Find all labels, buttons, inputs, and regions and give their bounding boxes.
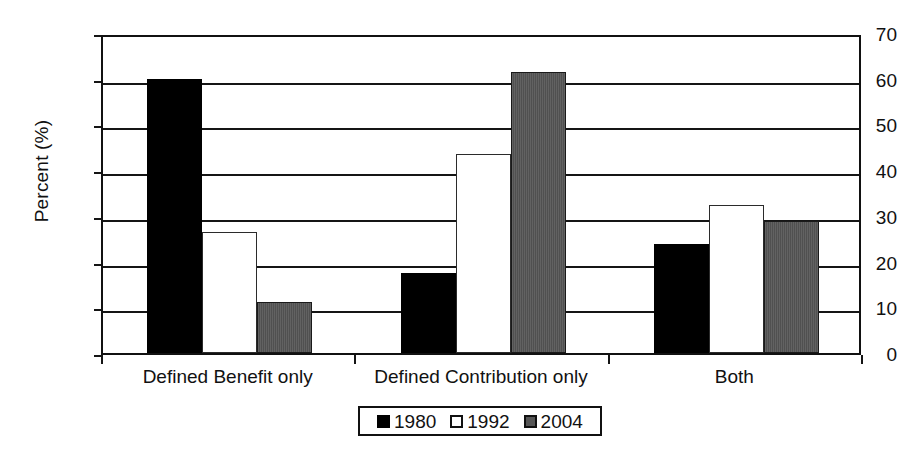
bar-1992-3 (709, 205, 764, 353)
bar-1980-1 (147, 79, 202, 353)
y-tick-mark (94, 172, 101, 174)
x-category-label: Both (608, 366, 861, 388)
y-tick-label: 50 (857, 116, 897, 135)
bar-1992-2 (456, 154, 511, 353)
gridline (103, 128, 859, 130)
bar-2004-3 (764, 221, 819, 353)
plot-area (101, 35, 861, 355)
x-category-label: Defined Contribution only (354, 366, 607, 388)
x-tick-mark (354, 355, 356, 364)
y-tick-mark (94, 309, 101, 311)
y-tick-mark (94, 126, 101, 128)
bar-2004-2 (511, 72, 566, 353)
legend-label: 2004 (541, 412, 583, 431)
y-axis-title: Percent (%) (31, 51, 53, 291)
y-tick-mark (94, 218, 101, 220)
bar-chart-figure: Percent (%) 010203040506070 Defined Bene… (0, 0, 897, 461)
legend-swatch-icon (524, 415, 537, 428)
bar-2004-1 (257, 302, 312, 353)
x-category-label: Defined Benefit only (101, 366, 354, 388)
legend-label: 1992 (467, 412, 509, 431)
bar-1992-1 (202, 232, 257, 353)
y-tick-label: 0 (857, 345, 897, 364)
bar-1980-3 (654, 244, 709, 353)
y-tick-label: 10 (857, 299, 897, 318)
chart-legend: 198019922004 (358, 406, 602, 436)
legend-item-2004: 2004 (524, 412, 583, 431)
x-tick-mark (101, 355, 103, 364)
legend-swatch-icon (377, 415, 390, 428)
legend-item-1992: 1992 (450, 412, 509, 431)
y-tick-label: 70 (857, 25, 897, 44)
y-tick-label: 40 (857, 162, 897, 181)
y-tick-mark (94, 264, 101, 266)
y-tick-mark (94, 35, 101, 37)
x-tick-mark (608, 355, 610, 364)
y-tick-mark (94, 81, 101, 83)
gridline (103, 83, 859, 85)
bar-1980-2 (401, 273, 456, 353)
y-tick-label: 20 (857, 254, 897, 273)
legend-label: 1980 (394, 412, 436, 431)
x-tick-mark (861, 355, 863, 364)
y-tick-mark (94, 355, 101, 357)
y-tick-label: 30 (857, 208, 897, 227)
legend-swatch-icon (450, 415, 463, 428)
legend-item-1980: 1980 (377, 412, 436, 431)
y-tick-label: 60 (857, 71, 897, 90)
